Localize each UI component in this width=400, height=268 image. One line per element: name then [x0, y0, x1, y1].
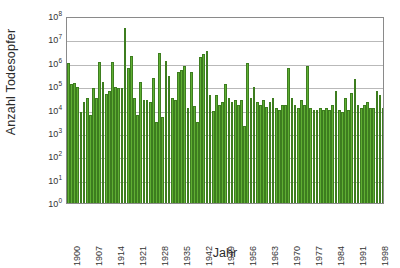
x-axis-title: Jahr — [66, 246, 384, 260]
y-tick-label: 105 — [48, 82, 62, 92]
y-tick-label: 103 — [48, 129, 62, 139]
chart-screenshot: Anzahl Todesopfer 1001011021031041051061… — [0, 0, 400, 268]
y-tick-label: 108 — [48, 12, 62, 22]
plot-area — [66, 17, 384, 204]
y-tick-label: 106 — [48, 59, 62, 69]
y-tick-label: 101 — [48, 176, 62, 186]
bar — [382, 108, 384, 203]
y-tick-label: 102 — [48, 152, 62, 162]
y-tick-label: 107 — [48, 35, 62, 45]
y-axis-title: Anzahl Todesopfer — [0, 0, 22, 216]
x-axis-tick-labels: 1900190719141921192819351942194919561963… — [0, 204, 400, 250]
bar-series — [67, 18, 383, 203]
y-tick-label: 104 — [48, 106, 62, 116]
